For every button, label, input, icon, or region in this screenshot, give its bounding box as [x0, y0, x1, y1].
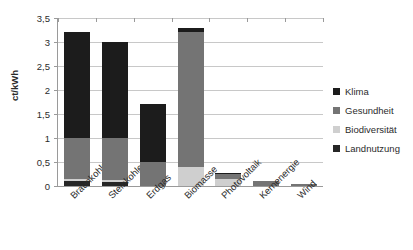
bar-segment-gesundheit — [64, 138, 90, 179]
y-axis-tick-mark — [54, 66, 58, 67]
legend-item-klima[interactable]: Klima — [333, 86, 400, 97]
y-axis-tick-mark — [54, 90, 58, 91]
legend-swatch-icon — [333, 107, 340, 114]
y-axis-tick-label: 3 — [4, 37, 50, 48]
y-axis-tick-label: 0 — [4, 181, 50, 192]
y-axis-tick-mark — [54, 162, 58, 163]
x-axis-tick-mark — [285, 18, 286, 22]
x-axis-tick-mark — [172, 18, 173, 22]
y-axis-tick-label: 0,5 — [4, 157, 50, 168]
legend-item-gesundheit[interactable]: Gesundheit — [333, 105, 400, 116]
x-axis-label-kernenergie: Kernenergie — [257, 156, 301, 200]
x-axis-tick-mark — [323, 18, 324, 22]
legend-label: Biodiversität — [345, 124, 397, 135]
legend-swatch-icon — [333, 145, 340, 152]
legend-item-biodiversität[interactable]: Biodiversität — [333, 124, 400, 135]
legend-label: Gesundheit — [345, 105, 394, 116]
chart-legend: KlimaGesundheitBiodiversitätLandnutzung — [333, 86, 400, 154]
legend-label: Landnutzung — [345, 143, 400, 154]
y-axis-tick-label: 1 — [4, 133, 50, 144]
bar-segment-klima — [64, 32, 90, 138]
bar-biomasse — [178, 28, 204, 186]
chart-container: ct/kWh 00,511,522,533,5BraunkohleSteinko… — [0, 0, 413, 250]
plot-area: 00,511,522,533,5BraunkohleSteinkohleErdg… — [57, 18, 323, 187]
x-axis-tick-mark — [247, 18, 248, 22]
x-axis-tick-mark — [134, 18, 135, 22]
bar-braunkohle — [64, 32, 90, 186]
y-axis-tick-label: 2 — [4, 85, 50, 96]
bar-segment-gesundheit — [178, 32, 204, 166]
y-axis-tick-label: 2,5 — [4, 61, 50, 72]
y-axis-tick-label: 3,5 — [4, 13, 50, 24]
x-axis-tick-mark — [209, 18, 210, 22]
y-axis-tick-mark — [54, 186, 58, 187]
gridline — [58, 18, 323, 19]
y-axis-tick-mark — [54, 42, 58, 43]
bar-segment-klima — [140, 104, 166, 162]
legend-item-landnutzung[interactable]: Landnutzung — [333, 143, 400, 154]
y-axis-tick-mark — [54, 114, 58, 115]
y-axis-tick-mark — [54, 138, 58, 139]
bar-steinkohle — [102, 42, 128, 186]
x-axis-tick-mark — [96, 18, 97, 22]
legend-swatch-icon — [333, 126, 340, 133]
x-axis-label-wind: Wind — [295, 178, 318, 201]
legend-label: Klima — [345, 86, 369, 97]
y-axis-tick-label: 1,5 — [4, 109, 50, 120]
legend-swatch-icon — [333, 88, 340, 95]
bar-segment-klima — [102, 42, 128, 138]
x-axis-tick-mark — [58, 18, 59, 22]
